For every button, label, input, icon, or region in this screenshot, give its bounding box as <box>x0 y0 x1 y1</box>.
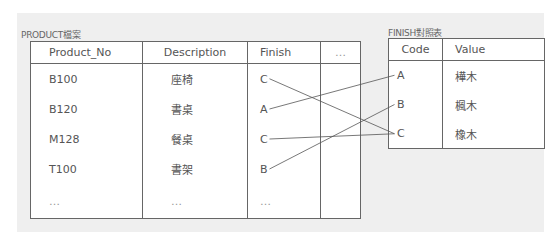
cell-finish: A <box>248 94 321 124</box>
cell-description: 座椅 <box>143 64 248 95</box>
table-row: B 楓木 <box>389 90 545 119</box>
cell-finish: C <box>248 124 321 154</box>
cell-value: 橡木 <box>443 119 545 149</box>
cell-product-no: B120 <box>31 94 143 124</box>
header-finish: Finish <box>248 42 321 64</box>
header-description: Description <box>143 42 248 64</box>
cell-code: B <box>389 90 443 119</box>
cell-code: C <box>389 119 443 149</box>
cell-code: A <box>389 61 443 91</box>
cell-description: … <box>143 184 248 219</box>
table-row: C 橡木 <box>389 119 545 149</box>
header-more: … <box>321 42 361 64</box>
cell-more <box>321 184 361 219</box>
cell-value: 楓木 <box>443 90 545 119</box>
header-product-no: Product_No <box>31 42 143 64</box>
finish-header-row: Code Value <box>389 39 545 61</box>
product-table-title: PRODUCT檔案 <box>21 28 80 41</box>
cell-product-no: M128 <box>31 124 143 154</box>
product-header-row: Product_No Description Finish … <box>31 42 361 64</box>
cell-more <box>321 94 361 124</box>
cell-description: 書架 <box>143 154 248 184</box>
cell-product-no: B100 <box>31 64 143 95</box>
cell-description: 餐桌 <box>143 124 248 154</box>
cell-more <box>321 154 361 184</box>
table-row: A 樺木 <box>389 61 545 91</box>
table-row: M128 餐桌 C <box>31 124 361 154</box>
cell-description: 書桌 <box>143 94 248 124</box>
cell-more <box>321 64 361 95</box>
table-row: B100 座椅 C <box>31 64 361 95</box>
cell-finish: C <box>248 64 321 95</box>
finish-table: Code Value A 樺木 B 楓木 C 橡木 <box>388 38 545 149</box>
cell-value: 樺木 <box>443 61 545 91</box>
header-code: Code <box>389 39 443 61</box>
cell-more <box>321 124 361 154</box>
header-value: Value <box>443 39 545 61</box>
cell-product-no: … <box>31 184 143 219</box>
table-row: T100 書架 B <box>31 154 361 184</box>
product-table: Product_No Description Finish … B100 座椅 … <box>30 41 361 219</box>
table-row-ellipsis: … … … <box>31 184 361 219</box>
cell-product-no: T100 <box>31 154 143 184</box>
cell-finish: … <box>248 184 321 219</box>
cell-finish: B <box>248 154 321 184</box>
table-row: B120 書桌 A <box>31 94 361 124</box>
